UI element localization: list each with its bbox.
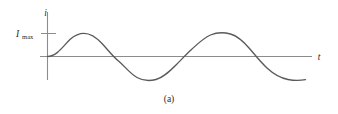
figure-caption: (a) [164,94,175,105]
y-tick-label-imax: I max [15,29,34,40]
waveform-plot: i t I max (a) [0,0,338,114]
figure-container: i t I max (a) [0,0,338,114]
y-tick-label-imax-base: I [15,29,20,39]
y-tick-label-imax-subscript: max [22,33,34,40]
y-axis-label: i [44,8,47,18]
x-axis-label: t [318,52,321,62]
